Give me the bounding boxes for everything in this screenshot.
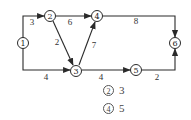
edge-label-1-2: 3 [30,17,35,27]
option-value: 5 [119,99,125,117]
answer-options: 2 3 4 5 [103,81,125,117]
node-label: 2 [47,12,52,21]
edge-label-2-3: 2 [55,37,60,47]
circled-number-marker: 4 [103,103,114,114]
edge-label-1-3: 4 [44,72,49,82]
node-label: 6 [172,39,177,48]
edge-label-3-4: 7 [92,40,97,50]
nodes: 1 2 3 4 5 6 [18,11,181,77]
node-label: 4 [94,12,99,21]
node-1: 1 [18,38,29,49]
edge-4-6 [103,16,175,37]
edge-label-2-4: 6 [68,17,73,27]
option-item: 2 3 [103,81,125,99]
edge-5-6 [142,49,175,70]
edge-1-3 [23,48,70,70]
node-3: 3 [71,66,82,77]
node-4: 4 [92,11,103,22]
edge-label-5-6: 2 [155,72,160,82]
circled-number-marker: 2 [103,85,114,96]
node-label: 3 [73,67,78,76]
edge-label-4-6: 8 [134,16,139,26]
node-label: 1 [20,39,25,48]
network-diagram: 3 4 6 2 7 8 4 2 1 2 3 4 5 6 [0,0,191,120]
node-2: 2 [45,11,56,22]
node-5: 5 [131,65,142,76]
edges [23,16,175,70]
node-6: 6 [170,38,181,49]
option-value: 3 [119,81,125,99]
option-item: 4 5 [103,99,125,117]
node-label: 5 [133,66,138,75]
